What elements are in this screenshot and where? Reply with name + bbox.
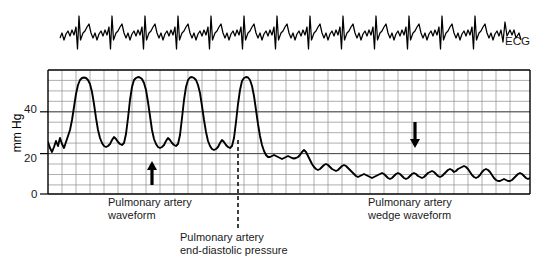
y-tick-label-0: 0 [31, 188, 37, 201]
arrow-down-wedge [410, 122, 420, 148]
y-tick-label-20: 20 [24, 152, 37, 165]
y-axis-title: mm Hg [10, 103, 24, 163]
waveform-svg [0, 0, 541, 267]
pa-catheter-pressure-figure: ECG mm Hg 40 20 0 Pulmonary artery wavef… [0, 0, 541, 267]
plot-gridlines [48, 70, 530, 194]
ecg-trace [60, 16, 521, 49]
pulmonary-artery-waveform-label: Pulmonary artery waveform [108, 196, 192, 221]
ecg-label: ECG [505, 35, 530, 48]
pa-wedge-waveform-label: Pulmonary artery wedge waveform [368, 196, 452, 221]
plot-axes [48, 70, 530, 194]
y-axis-ticks [40, 112, 48, 194]
y-tick-label-40: 40 [24, 103, 37, 116]
pressure-trace [48, 77, 530, 181]
arrow-up-diastole [147, 161, 157, 185]
pa-end-diastolic-pressure-label: Pulmonary artery end-diastolic pressure [180, 231, 288, 256]
